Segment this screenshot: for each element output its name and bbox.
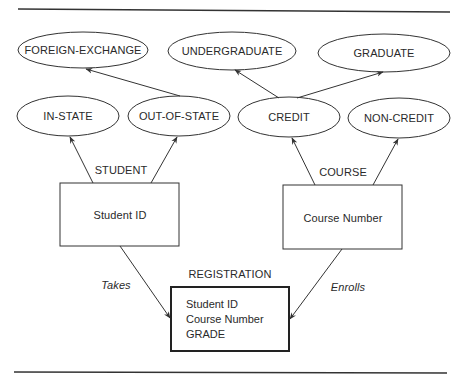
- arrow-course-to-non-credit: [373, 139, 398, 185]
- arrow-student-to-in-state: [70, 137, 93, 183]
- arrow-credit-to-graduate: [297, 72, 383, 98]
- arrow-credit-to-undergraduate: [235, 70, 279, 98]
- attr-credit: CREDIT: [268, 111, 310, 123]
- course-key: Course Number: [304, 212, 383, 224]
- bottom-rule: [14, 372, 447, 373]
- entity-name-course: COURSE: [319, 166, 367, 178]
- relationship-enrolls: Enrolls: [331, 281, 365, 293]
- entity-name-student: STUDENT: [95, 164, 148, 176]
- entity-name-registration: REGISTRATION: [189, 268, 272, 280]
- attr-graduate: GRADUATE: [353, 47, 414, 59]
- registration-fields: Student ID Course Number GRADE: [186, 297, 264, 342]
- arrow-student-to-out-of-state: [151, 137, 177, 183]
- student-key: Student ID: [94, 209, 147, 221]
- attr-in-state: IN-STATE: [43, 110, 92, 122]
- arrow-out-of-state-to-foreign-exchange: [86, 69, 180, 96]
- registration-field-course-number: Course Number: [186, 312, 264, 327]
- attr-out-of-state: OUT-OF-STATE: [139, 110, 219, 122]
- relationship-takes: Takes: [101, 279, 130, 291]
- attr-foreign-exchange: FOREIGN-EXCHANGE: [24, 44, 141, 56]
- top-rule: [18, 9, 450, 12]
- registration-field-student-id: Student ID: [186, 297, 264, 312]
- arrow-course-to-credit: [292, 138, 315, 185]
- attr-undergraduate: UNDERGRADUATE: [182, 45, 283, 57]
- registration-field-grade: GRADE: [186, 327, 264, 342]
- attr-non-credit: NON-CREDIT: [364, 112, 434, 124]
